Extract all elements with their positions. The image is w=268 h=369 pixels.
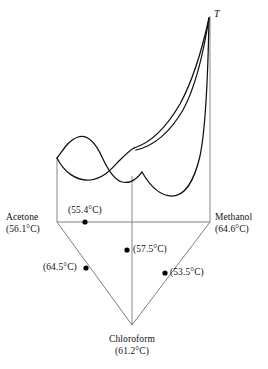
boiling-surface-curves xyxy=(57,18,209,196)
triangle-edge-acetone-chloroform xyxy=(57,222,132,325)
curve-valley-to-T xyxy=(142,18,209,196)
marker-acetone-chloroform-azeotrope[interactable] xyxy=(83,265,88,270)
marker-acetone-methanol-azeotrope[interactable] xyxy=(82,219,87,224)
vertex-label-chloroform: Chloroform (61.2°C) xyxy=(82,333,182,357)
ternary-diagram-svg xyxy=(0,0,268,369)
azeotrope-label-acetone-chloroform: (64.5°C) xyxy=(43,262,77,274)
t-axis-label: T xyxy=(214,8,220,19)
azeotrope-label-ternary: (57.5°C) xyxy=(133,244,167,256)
vertical-axes xyxy=(57,16,210,325)
marker-ternary-azeotrope[interactable] xyxy=(124,247,129,252)
curve-inner-ridge-to-T xyxy=(136,18,209,150)
vertex-methanol-temperature: (64.6°C) xyxy=(215,223,252,235)
azeotrope-label-acetone-methanol: (55.4°C) xyxy=(68,205,102,217)
figure-canvas: T Acetone (56.1°C) Methanol (64.6°C) Chl… xyxy=(0,0,268,369)
vertex-chloroform-temperature: (61.2°C) xyxy=(82,345,182,357)
curve-left-hump xyxy=(57,136,142,182)
marker-methanol-chloroform-azeotrope[interactable] xyxy=(162,270,167,275)
azeotrope-label-methanol-chloroform: (53.5°C) xyxy=(170,267,204,279)
vertex-acetone-temperature: (56.1°C) xyxy=(6,223,40,235)
curve-back-ridge-to-T xyxy=(134,18,209,148)
vertex-label-acetone: Acetone (56.1°C) xyxy=(6,211,40,235)
vertex-chloroform-name: Chloroform xyxy=(82,333,182,345)
vertex-acetone-name: Acetone xyxy=(6,211,40,223)
vertex-methanol-name: Methanol xyxy=(215,211,252,223)
curve-front-lower-edge xyxy=(57,148,134,180)
vertex-label-methanol: Methanol (64.6°C) xyxy=(215,211,252,235)
